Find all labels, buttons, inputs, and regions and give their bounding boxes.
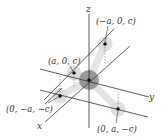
tetrahedral-diagram: z y x (−a, 0, c) (a, 0, c) (0, −a, −c) (… <box>0 0 161 140</box>
x-axis-label: x <box>37 121 42 131</box>
point-label-neg-a-0-c: (−a, 0, c) <box>96 16 136 26</box>
y-axis-label: y <box>148 92 155 102</box>
point-label-0-neg-a-neg-c: (0, −a, −c) <box>6 104 53 114</box>
point-label-a-0-c: (a, 0, c) <box>48 56 81 66</box>
point-label-0-a-neg-c: (0, a, −c) <box>97 124 137 134</box>
y-parallel-line <box>40 90 148 117</box>
z-axis-label: z <box>85 4 91 14</box>
